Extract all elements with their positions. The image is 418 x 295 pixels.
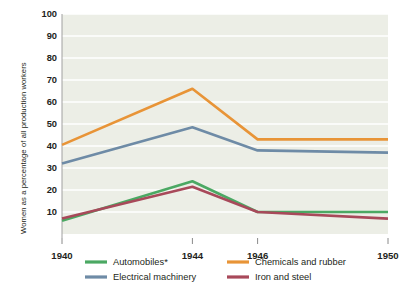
y-tick-label: 80	[47, 53, 57, 63]
x-tick-label: 1944	[182, 250, 204, 261]
y-tick-label: 40	[47, 141, 57, 151]
y-tick-label: 70	[47, 75, 57, 85]
y-tick-label: 30	[47, 163, 57, 173]
y-tick-label: 20	[47, 185, 57, 195]
y-tick-label: 100	[41, 9, 57, 19]
x-tick-label: 1940	[51, 250, 72, 261]
y-tick-label: 50	[47, 119, 57, 129]
y-axis-title: Women as a percentage of all production …	[19, 62, 28, 234]
chart-svg: 102030405060708090100 1940194419461950 W…	[0, 0, 418, 295]
y-tick-label: 10	[47, 207, 57, 217]
legend-label: Iron and steel	[255, 272, 311, 282]
legend-label: Chemicals and rubber	[255, 257, 346, 267]
x-tick-label: 1950	[377, 250, 398, 261]
legend-label: Electrical machinery	[113, 272, 197, 282]
legend-label: Automobiles*	[113, 257, 168, 267]
y-tick-label: 90	[47, 31, 57, 41]
y-axis-title-text: Women as a percentage of all production …	[19, 62, 28, 234]
line-chart: 102030405060708090100 1940194419461950 W…	[0, 0, 418, 295]
y-tick-label: 60	[47, 97, 57, 107]
